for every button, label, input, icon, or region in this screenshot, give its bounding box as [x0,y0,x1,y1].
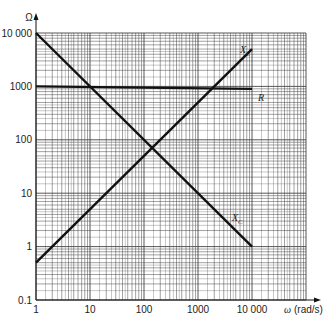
y-tick-label: 10 [21,188,33,199]
xc-series-label: XC [231,212,243,226]
y-tick-label: 10 000 [1,28,32,39]
y-tick-label: 1 [26,241,32,252]
y-tick-label: 100 [15,134,32,145]
y-axis-label: Ω [25,12,33,23]
y-axis-arrow-icon [34,13,39,20]
x-tick-label: 1000 [187,304,210,315]
x-axis-label-symbol: ω [284,304,291,315]
log-log-impedance-chart: 0.1110100100010 000110100100010 000Ωω(ra… [0,0,327,326]
x-tick-label: 100 [136,304,153,315]
x-tick-label: 1 [33,304,39,315]
x-axis-arrow-icon [314,298,321,303]
y-tick-label: 0.1 [18,295,32,306]
y-tick-label: 1000 [10,81,33,92]
x-tick-label: 10 [84,304,96,315]
r-series-label: R [257,92,264,103]
x-axis-label-unit: (rad/s) [294,304,323,315]
x-tick-label: 10 000 [237,304,268,315]
